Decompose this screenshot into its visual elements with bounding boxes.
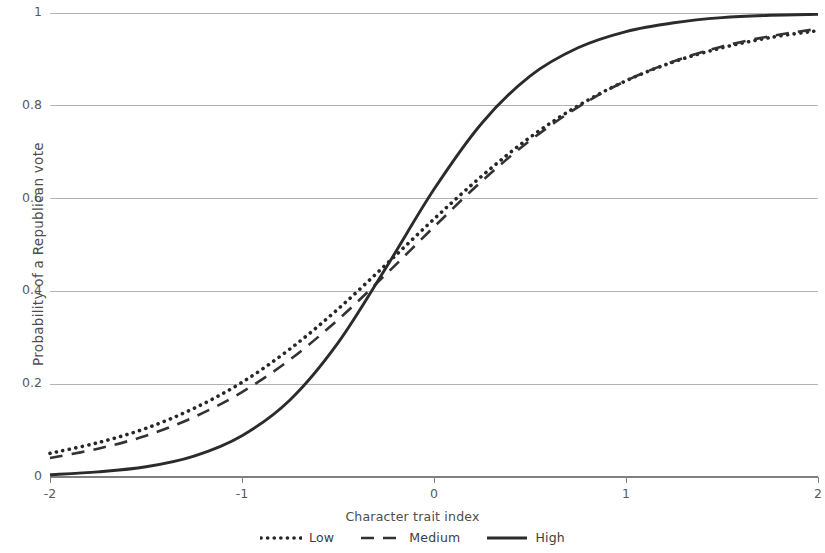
x-tick-marks-group	[50, 477, 818, 483]
series-line-high	[50, 14, 818, 474]
y-tick-label: 1	[2, 4, 42, 19]
legend-label: High	[535, 530, 565, 545]
y-tick-label: 0	[2, 468, 42, 483]
series-line-low	[50, 31, 818, 454]
x-tick-label: 2	[798, 486, 825, 501]
legend-item-low[interactable]: Low	[260, 530, 334, 545]
legend-item-high[interactable]: High	[486, 530, 565, 545]
legend-label: Medium	[409, 530, 460, 545]
legend-swatch-dashed	[360, 532, 402, 543]
x-tick-label: -2	[30, 486, 70, 501]
x-tick-label: 0	[414, 486, 454, 501]
legend-label: Low	[309, 530, 334, 545]
chart-plot-area	[0, 0, 825, 553]
legend-swatch-solid	[486, 532, 528, 543]
series-curves-group	[50, 14, 818, 474]
y-axis-title: Probability of a Republican vote	[30, 104, 46, 404]
series-line-medium	[50, 29, 818, 458]
x-axis-title: Character trait index	[0, 509, 825, 524]
gridlines-group	[50, 13, 818, 477]
legend-item-medium[interactable]: Medium	[360, 530, 460, 545]
x-tick-label: 1	[606, 486, 646, 501]
chart-legend: LowMediumHigh	[0, 530, 825, 545]
chart-container: 00.20.40.60.81 -2-1012 Probability of a …	[0, 0, 825, 553]
legend-swatch-dotted	[260, 532, 302, 543]
x-tick-label: -1	[222, 486, 262, 501]
